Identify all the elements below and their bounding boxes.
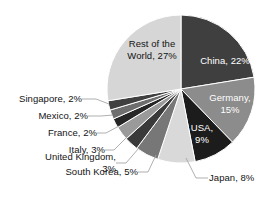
leader-line-italy	[105, 137, 127, 150]
slice-label-italy: Italy, 3%	[45, 144, 105, 156]
leader-line-singapore	[82, 99, 109, 104]
slice-label-mexico: Mexico, 2%	[22, 110, 88, 122]
pie-chart: China, 22% Germany, 15% USA, 9% Rest of …	[0, 0, 271, 205]
slice-label-china: China, 22%	[196, 55, 254, 67]
slice-label-rest-of-the-world: Rest of the World, 27%	[118, 38, 186, 61]
slice-label-france: France, 2%	[33, 127, 97, 139]
slice-label-usa: USA, 9%	[186, 122, 218, 145]
leader-line-france	[97, 126, 119, 133]
slice-label-germany: Germany, 15%	[202, 92, 258, 115]
slice-label-singapore: Singapore, 2%	[4, 93, 82, 105]
leader-line-united-kingdom	[116, 148, 139, 163]
slice-label-japan: Japan, 8%	[209, 172, 254, 184]
leader-line-mexico	[88, 115, 113, 116]
pie-slice-china[interactable]	[181, 15, 254, 89]
